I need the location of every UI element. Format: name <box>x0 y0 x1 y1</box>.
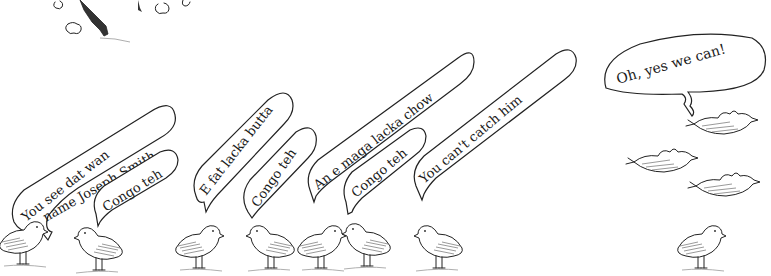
flying-bird <box>626 149 698 172</box>
flying-birds <box>626 111 760 196</box>
standing-bird <box>74 228 122 273</box>
standing-bird <box>246 226 294 271</box>
bubble-text: You can't catch him <box>416 92 525 187</box>
running-figure-fragment <box>80 0 142 42</box>
cartoon-svg: You see dat wan name Joseph Smith Congo … <box>0 0 771 276</box>
flying-bird <box>688 173 760 196</box>
speech-bubble: An e maga lacka chow <box>308 53 474 202</box>
standing-bird <box>414 226 462 271</box>
cartoon-scene: You see dat wan name Joseph Smith Congo … <box>0 0 771 276</box>
dust-clouds <box>54 0 190 34</box>
flying-bird <box>686 111 758 134</box>
standing-bird <box>176 226 224 271</box>
standing-bird <box>678 226 726 271</box>
speech-bubble: Oh, yes we can! <box>605 34 766 116</box>
standing-bird <box>298 226 346 271</box>
standing-bird <box>342 224 390 269</box>
standing-birds <box>0 222 726 273</box>
